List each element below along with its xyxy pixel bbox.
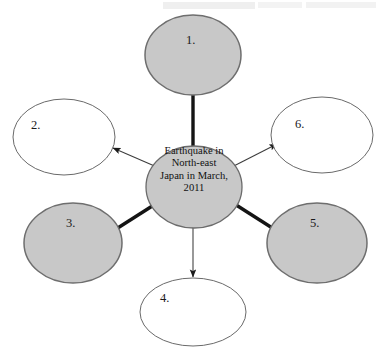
diagram-svg [0,0,385,349]
node-2-shape[interactable] [13,99,115,175]
node-6-shape[interactable] [271,97,373,173]
node-5-shape[interactable] [267,203,367,283]
node-3-shape[interactable] [24,203,122,283]
node-4-shape[interactable] [140,278,246,346]
diagram-canvas: Earthquake in North-east Japan in March,… [0,0,385,349]
node-1-shape[interactable] [145,15,241,95]
central-topic-shape[interactable] [146,146,242,228]
